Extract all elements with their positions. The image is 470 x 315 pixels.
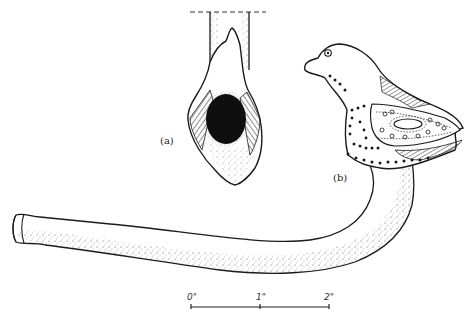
figure-a-label: (a)	[160, 135, 174, 146]
figure-b-label: (b)	[333, 172, 347, 183]
scale-tick-1: 1"	[256, 292, 266, 302]
figure-a-pipe-top-view	[188, 12, 266, 185]
scale-tick-2: 2"	[324, 292, 334, 302]
pipe-illustration	[0, 0, 470, 315]
scale-tick-0: 0"	[187, 292, 197, 302]
scale-bar	[191, 304, 329, 309]
